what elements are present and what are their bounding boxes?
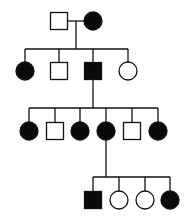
affected-female-iii-6 xyxy=(149,122,167,140)
unaffected-male-ii-2 xyxy=(51,63,68,80)
affected-female-iii-3 xyxy=(71,122,89,140)
unaffected-male-iii-5 xyxy=(124,123,141,140)
unaffected-female-ii-4 xyxy=(119,62,137,80)
unaffected-male-i-1 xyxy=(51,13,68,30)
unaffected-female-iv-3 xyxy=(136,191,154,209)
affected-female-ii-1 xyxy=(16,62,34,80)
affected-male-ii-3 xyxy=(85,63,102,80)
affected-female-iii-4 xyxy=(97,122,115,140)
relationship-lines xyxy=(25,21,170,192)
unaffected-male-iii-2 xyxy=(47,123,64,140)
affected-female-iv-4 xyxy=(161,191,179,209)
pedigree-chart xyxy=(0,0,187,222)
affected-male-iv-1 xyxy=(85,192,102,209)
individuals xyxy=(16,12,179,209)
affected-female-i-2 xyxy=(84,12,102,30)
unaffected-female-iv-2 xyxy=(110,191,128,209)
affected-female-iii-1 xyxy=(20,122,38,140)
